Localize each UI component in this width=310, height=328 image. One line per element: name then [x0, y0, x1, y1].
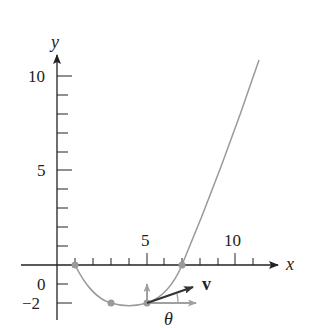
velocity-vector-label: v: [202, 274, 211, 294]
x-tick-label-5: 5: [141, 231, 150, 250]
angle-theta-label: θ: [164, 309, 173, 328]
curve-point: [179, 262, 186, 269]
y-tick-label-10: 10: [28, 67, 45, 86]
curve-point: [108, 300, 115, 307]
y-axis-label: y: [49, 32, 59, 52]
y-tick-label-0: 0: [37, 275, 46, 294]
x-tick-label-10: 10: [224, 231, 241, 250]
x-axis-label: x: [285, 254, 294, 274]
diagram-canvas: y x 5 10 10 5 0 −2 v θ: [0, 0, 310, 328]
y-axis: [57, 55, 72, 320]
angle-arc: [177, 294, 178, 303]
x-axis-ticks: [75, 253, 253, 265]
y-axis-ticks: [57, 76, 72, 303]
parametric-curve: [75, 60, 259, 306]
velocity-vector-arrow: [147, 287, 193, 303]
y-tick-label-neg2: −2: [22, 294, 40, 313]
y-tick-label-5: 5: [37, 161, 46, 180]
x-axis: [21, 253, 278, 265]
curve-points: [72, 262, 186, 307]
curve-point: [72, 262, 79, 269]
